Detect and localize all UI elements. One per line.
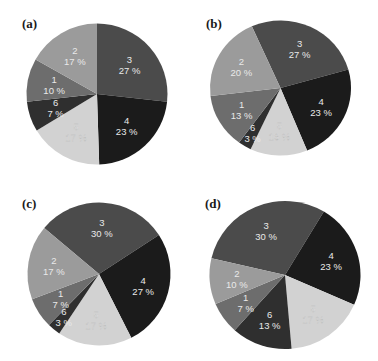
slice-category-label: 5 [73, 121, 78, 132]
slice-category-label: 3 [127, 54, 132, 65]
slice-category-label: 6 [53, 97, 58, 108]
slice-category-label: 2 [239, 56, 244, 67]
slice-percent-label: 20 % [230, 67, 252, 78]
pie-chart-c: 330 %427 %517 %63 %17 %217 % [28, 203, 171, 346]
slice-percent-label: 23 % [310, 107, 332, 118]
slice-category-label: 4 [318, 96, 323, 107]
slice-percent-label: 3 % [56, 317, 73, 328]
pie-chart-d: 330 %423 %517 %613 %17 %210 % [210, 201, 361, 349]
slice-percent-label: 27 % [119, 65, 141, 76]
slice-percent-label: 10 % [43, 85, 65, 96]
slice-category-label: 6 [250, 122, 255, 133]
slice-category-label: 5 [310, 303, 315, 314]
slice-percent-label: 27 % [132, 286, 154, 297]
slice-percent-label: 7 % [47, 108, 64, 119]
slice-percent-label: 17 % [85, 320, 107, 331]
slice-percent-label: 23 % [320, 261, 342, 272]
slice-category-label: 1 [58, 288, 63, 299]
slice-percent-label: 17 % [64, 56, 86, 67]
slice-percent-label: 7 % [53, 299, 70, 310]
slice-percent-label: 3 % [244, 133, 261, 144]
slice-percent-label: 13 % [259, 320, 281, 331]
slice-percent-label: 27 % [289, 49, 311, 60]
slice-percent-label: 17 % [43, 266, 65, 277]
slice-percent-label: 17 % [65, 132, 87, 143]
slice-percent-label: 23 % [116, 126, 138, 137]
slice-category-label: 2 [234, 268, 239, 279]
slice-category-label: 5 [277, 120, 282, 131]
pie-chart-b: 327 %423 %513 %63 %113 %220 % [210, 21, 351, 156]
slice-category-label: 3 [263, 220, 268, 231]
slice-category-label: 1 [239, 99, 244, 110]
slice-category-label: 6 [267, 309, 272, 320]
slice-percent-label: 7 % [238, 303, 255, 314]
slice-percent-label: 30 % [91, 228, 113, 239]
pie-chart-a: 327 %423 %517 %67 %110 %217 % [27, 24, 168, 165]
slice-percent-label: 13 % [231, 110, 253, 121]
slice-category-label: 4 [141, 275, 146, 286]
slice-percent-label: 13 % [269, 131, 291, 142]
slice-percent-label: 17 % [302, 314, 324, 325]
slice-percent-label: 10 % [226, 279, 248, 290]
slice-category-label: 1 [52, 74, 57, 85]
slice-category-label: 4 [124, 115, 129, 126]
slice-category-label: 5 [94, 309, 99, 320]
slice-category-label: 1 [243, 292, 248, 303]
slice-category-label: 3 [297, 38, 302, 49]
slice-percent-label: 30 % [255, 231, 277, 242]
slice-category-label: 2 [51, 255, 56, 266]
slice-category-label: 2 [72, 45, 77, 56]
slice-category-label: 3 [99, 217, 104, 228]
slice-category-label: 4 [328, 250, 333, 261]
pie-slice-3 [97, 24, 167, 102]
pie-charts-canvas: 327 %423 %517 %67 %110 %217 % 327 %423 %… [0, 0, 378, 361]
